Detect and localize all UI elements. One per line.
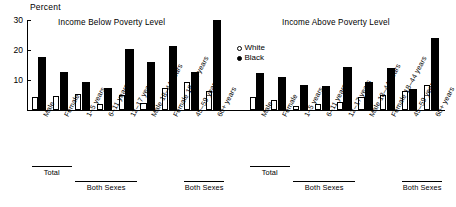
filled-circle-icon	[237, 56, 242, 61]
group-bracket-line	[250, 166, 291, 167]
group-bracket-label: Both Sexes	[61, 183, 151, 192]
group-bracket-line	[184, 181, 225, 182]
bar-black	[38, 57, 46, 110]
group-bracket-label: Both Sexes	[279, 183, 369, 192]
bar-group	[250, 20, 272, 110]
group-bracket-line	[32, 166, 73, 167]
open-circle-icon	[237, 46, 242, 51]
y-axis-line	[27, 20, 28, 110]
bar-group	[32, 20, 54, 110]
group-bracket-line	[402, 181, 443, 182]
group-bracket-label: Both Sexes	[388, 183, 456, 192]
bar-white	[32, 97, 38, 111]
group-bracket-label: Total	[236, 168, 305, 177]
bar-black	[213, 20, 221, 110]
group-bracket-line	[75, 181, 137, 182]
y-tick-label-20: 20	[3, 46, 23, 55]
y-axis-label: Percent	[30, 2, 61, 12]
bar-white	[250, 97, 256, 111]
bar-black	[125, 49, 133, 111]
y-tick-label-30: 30	[3, 16, 23, 25]
group-bracket-label: Total	[18, 168, 87, 177]
y-tick-label-10: 10	[3, 76, 23, 85]
group-bracket-line	[293, 181, 355, 182]
group-bracket-label: Both Sexes	[170, 183, 239, 192]
bar-black	[431, 38, 439, 110]
